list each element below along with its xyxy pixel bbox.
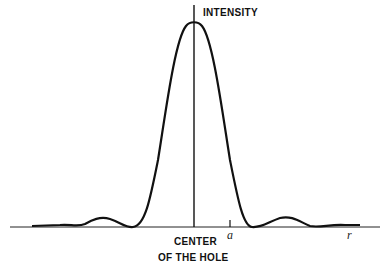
- center-label-line1: CENTER: [174, 236, 217, 247]
- tick-label-a: a: [227, 228, 233, 243]
- diffraction-plot: [0, 0, 383, 268]
- x-axis-label: r: [347, 228, 352, 243]
- y-axis-label: INTENSITY: [203, 7, 258, 18]
- center-label-line2: OF THE HOLE: [158, 252, 229, 263]
- intensity-curve: [32, 22, 360, 227]
